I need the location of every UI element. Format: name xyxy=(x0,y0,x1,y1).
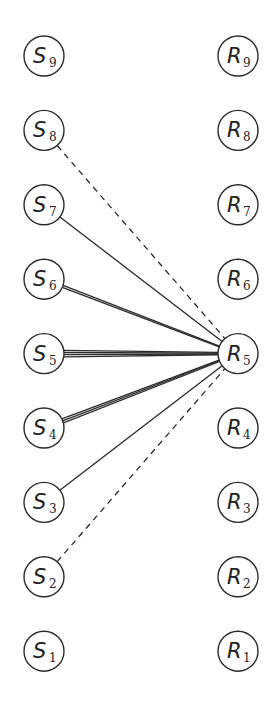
node-subscript: 8 xyxy=(243,130,251,144)
node-subscript: 4 xyxy=(243,428,251,442)
node-r4: R4 xyxy=(218,408,258,448)
edge-s8-r5 xyxy=(57,145,225,338)
node-letter: R xyxy=(227,118,242,142)
edge-s2-r5 xyxy=(57,369,225,562)
node-subscript: 4 xyxy=(49,428,57,442)
node-subscript: 6 xyxy=(49,279,57,293)
node-s9: S9 xyxy=(24,36,64,76)
node-subscript: 6 xyxy=(243,279,251,293)
node-subscript: 2 xyxy=(49,577,57,591)
dashed-edge-line xyxy=(57,145,225,338)
node-letter: R xyxy=(227,267,242,291)
node-s7: S7 xyxy=(24,185,64,225)
node-subscript: 7 xyxy=(243,205,251,219)
solid-edge-line xyxy=(62,360,219,419)
node-letter: S xyxy=(33,490,46,514)
edge-s6-r5 xyxy=(62,285,219,346)
node-subscript: 9 xyxy=(49,56,57,70)
node-subscript: 2 xyxy=(243,577,251,591)
edge-s3-r5 xyxy=(60,366,222,490)
node-r2: R2 xyxy=(218,557,258,597)
node-r1: R1 xyxy=(218,631,258,671)
node-layer: S9S8S7S6S5S4S3S2S1R9R8R7R6R5R4R3R2R1 xyxy=(24,36,258,671)
node-letter: R xyxy=(227,342,242,366)
node-subscript: 9 xyxy=(243,56,251,70)
node-letter: S xyxy=(33,342,46,366)
solid-edge-line xyxy=(62,287,219,346)
node-s3: S3 xyxy=(24,482,64,522)
node-s6: S6 xyxy=(24,259,64,299)
node-s4: S4 xyxy=(24,408,64,448)
node-r8: R8 xyxy=(218,110,258,150)
node-letter: S xyxy=(33,118,46,142)
node-letter: S xyxy=(33,267,46,291)
node-letter: S xyxy=(33,639,46,663)
node-letter: S xyxy=(33,416,46,440)
edge-s4-r5 xyxy=(62,360,220,423)
node-subscript: 5 xyxy=(49,354,57,368)
node-r7: R7 xyxy=(218,185,258,225)
node-s2: S2 xyxy=(24,557,64,597)
node-r6: R6 xyxy=(218,259,258,299)
dashed-edge-line xyxy=(57,369,225,562)
node-letter: S xyxy=(33,193,46,217)
bipartite-diagram: S9S8S7S6S5S4S3S2S1R9R8R7R6R5R4R3R2R1 xyxy=(0,0,277,712)
node-letter: R xyxy=(227,639,242,663)
node-subscript: 3 xyxy=(243,502,251,516)
node-subscript: 1 xyxy=(243,651,251,665)
node-letter: S xyxy=(33,44,46,68)
node-r9: R9 xyxy=(218,36,258,76)
node-subscript: 3 xyxy=(49,502,57,516)
node-letter: R xyxy=(227,490,242,514)
node-subscript: 8 xyxy=(49,130,57,144)
node-s5: S5 xyxy=(24,334,64,374)
edge-s7-r5 xyxy=(60,217,222,341)
node-s8: S8 xyxy=(24,110,64,150)
node-r3: R3 xyxy=(218,482,258,522)
solid-edge-line xyxy=(64,353,218,354)
edge-layer xyxy=(57,145,225,561)
edge-s5-r5 xyxy=(64,350,218,357)
solid-edge-line xyxy=(63,285,219,346)
node-letter: R xyxy=(227,44,242,68)
node-subscript: 1 xyxy=(49,651,57,665)
node-r5: R5 xyxy=(218,334,258,374)
solid-edge-line xyxy=(63,361,219,422)
solid-edge-line xyxy=(60,366,222,490)
solid-edge-line xyxy=(63,361,220,421)
node-s1: S1 xyxy=(24,631,64,671)
node-subscript: 5 xyxy=(243,354,251,368)
node-letter: R xyxy=(227,193,242,217)
node-letter: R xyxy=(227,416,242,440)
node-letter: S xyxy=(33,565,46,589)
solid-edge-line xyxy=(60,217,222,341)
node-subscript: 7 xyxy=(49,205,57,219)
node-letter: R xyxy=(227,565,242,589)
